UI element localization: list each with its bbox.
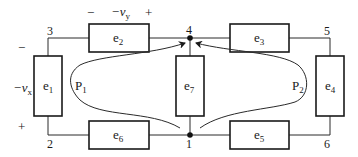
path-p1-label: P1 [75,78,87,95]
node-6-label: 6 [324,137,330,151]
node-3-label: 3 [47,24,53,38]
wire-e3-5 [289,38,330,56]
vy-plus-sign: + [145,5,152,20]
wire-3-e1 [48,38,89,56]
vx-plus-sign: + [18,119,25,134]
wire-e1-2 [48,116,89,135]
vy-label: −vy [111,4,131,21]
path-p2-curve [196,43,307,128]
path-p1-curve [71,43,185,128]
node-5-label: 5 [324,24,330,38]
circuit-diagram: e1 e2 e3 e4 e5 e6 e7 3 4 5 2 1 6 − −vx +… [0,0,358,157]
path-p2-label: P2 [292,78,304,95]
vy-minus-sign: − [87,5,94,20]
node-2-label: 2 [47,137,53,151]
node-1-label: 1 [186,137,192,151]
node-4-label: 4 [186,23,192,37]
wire-e5-6 [289,116,330,135]
vx-minus-sign: − [18,40,25,55]
vx-label: −vx [13,80,33,97]
